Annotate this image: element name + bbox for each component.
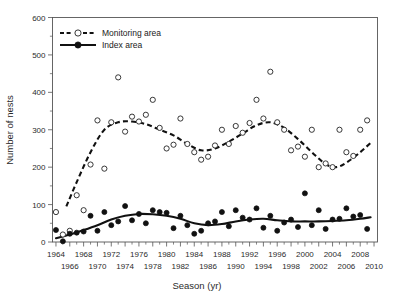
data-point [261, 116, 266, 121]
data-point [226, 224, 231, 229]
index-data-points [53, 191, 369, 244]
data-point [288, 148, 293, 153]
data-point [192, 150, 197, 155]
y-tick-label: 600 [32, 14, 46, 23]
data-point [351, 214, 356, 219]
legend-label-index: Index area [102, 40, 142, 50]
y-tick-label: 400 [32, 88, 46, 97]
data-point [323, 226, 328, 231]
data-point [53, 228, 58, 233]
data-point [116, 219, 121, 224]
data-point [136, 211, 141, 216]
data-point [219, 127, 224, 132]
data-point [143, 221, 148, 226]
x-tick-label: 1984 [185, 250, 203, 259]
index-trend-line [56, 214, 371, 238]
data-point [233, 208, 238, 213]
data-point [337, 216, 342, 221]
x-tick-label: 1982 [172, 262, 190, 271]
data-point [130, 218, 135, 223]
data-point [109, 120, 114, 125]
data-point [344, 206, 349, 211]
legend-open-circle-icon [75, 30, 81, 36]
y-tick-label: 100 [32, 201, 46, 210]
data-point [143, 112, 148, 117]
x-tick-label: 1974 [116, 262, 134, 271]
data-point [157, 210, 162, 215]
x-tick-label: 2000 [296, 250, 314, 259]
data-point [102, 210, 107, 215]
data-point [254, 97, 259, 102]
data-point [199, 157, 204, 162]
y-tick-label: 0 [41, 238, 46, 247]
data-point [323, 161, 328, 166]
data-point [212, 143, 217, 148]
x-tick-label: 1998 [282, 262, 300, 271]
x-tick-label: 2008 [351, 250, 369, 259]
x-tick-label: 1976 [130, 250, 148, 259]
data-point [81, 208, 86, 213]
data-point [289, 217, 294, 222]
data-point [199, 228, 204, 233]
data-point [316, 208, 321, 213]
data-point [247, 120, 252, 125]
data-point [67, 231, 72, 236]
data-point [74, 193, 79, 198]
x-tick-label: 2006 [337, 262, 355, 271]
legend-label-monitoring: Monitoring area [102, 28, 161, 38]
data-point [219, 210, 224, 215]
chart-legend: Monitoring area Index area [60, 28, 161, 50]
data-point [102, 166, 107, 171]
data-point [53, 209, 58, 214]
x-tick-label: 1972 [102, 250, 120, 259]
data-point [295, 144, 300, 149]
data-point [185, 141, 190, 146]
y-tick-label: 500 [32, 51, 46, 60]
legend-item-monitoring: Monitoring area [60, 28, 161, 38]
data-point [192, 231, 197, 236]
data-point [206, 221, 211, 226]
data-point [109, 223, 114, 228]
plot-frame [53, 18, 378, 243]
y-tick-label: 300 [32, 126, 46, 135]
data-point [247, 217, 252, 222]
x-tick-label: 2002 [310, 262, 328, 271]
data-point [205, 154, 210, 159]
x-tick-label: 1966 [61, 262, 79, 271]
x-tick-label: 1994 [255, 262, 273, 271]
data-point [178, 213, 183, 218]
data-point [88, 213, 93, 218]
data-point [88, 162, 93, 167]
data-point [330, 165, 335, 170]
data-point [150, 97, 155, 102]
data-point [178, 116, 183, 121]
y-axis: 0100200300400500600 [32, 14, 52, 248]
data-point [157, 125, 162, 130]
monitoring-data-points [53, 69, 369, 237]
x-tick-label: 1978 [144, 262, 162, 271]
x-tick-label: 1992 [241, 250, 259, 259]
data-point [344, 150, 349, 155]
data-point [268, 69, 273, 74]
x-tick-label: 1964 [47, 250, 65, 259]
legend-filled-circle-icon [75, 42, 81, 48]
data-point [337, 127, 342, 132]
data-point [309, 127, 314, 132]
data-point [136, 119, 141, 124]
data-point [282, 127, 287, 132]
data-point [171, 226, 176, 231]
data-point [295, 225, 300, 230]
x-tick-label: 1980 [158, 250, 176, 259]
x-tick-label: 1996 [268, 250, 286, 259]
x-tick-label: 1970 [89, 262, 107, 271]
data-point [358, 127, 363, 132]
data-point [275, 228, 280, 233]
data-point [268, 213, 273, 218]
data-point [164, 146, 169, 151]
data-point [330, 217, 335, 222]
y-axis-title: Number of nests [4, 95, 15, 165]
data-point [116, 75, 121, 80]
data-point [74, 230, 79, 235]
data-point [302, 154, 307, 159]
data-point [60, 232, 65, 237]
